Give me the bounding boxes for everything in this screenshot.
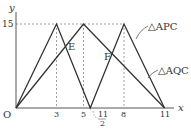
point-f-label: F <box>104 51 111 62</box>
x-tick-8: 8 <box>121 110 126 119</box>
x-tick-3: 3 <box>54 110 59 119</box>
x-axis-label: x <box>178 102 184 113</box>
x-tick-11: 11 <box>160 110 170 119</box>
x-tick-11-2-den: 2 <box>100 119 105 128</box>
aqc-label: △AQC <box>158 65 189 76</box>
apc-leader <box>136 26 148 39</box>
y-tick-15: 15 <box>2 19 14 29</box>
x-tick-11-2-num: 11 <box>98 110 108 119</box>
graph-diagram: y x O 15 3 5 11 2 8 11 E F △APC △AQC <box>0 0 191 129</box>
aqc-line <box>16 24 165 108</box>
apc-label: △APC <box>148 21 178 32</box>
apc-line <box>16 24 165 108</box>
x-tick-5: 5 <box>81 110 86 119</box>
point-e-label: E <box>68 41 75 52</box>
origin-label: O <box>3 109 11 120</box>
y-axis-label: y <box>8 2 15 13</box>
